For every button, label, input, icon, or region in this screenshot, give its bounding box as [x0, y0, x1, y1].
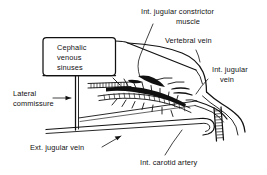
ext-jugular-arrowhead [115, 136, 121, 140]
label-int-carotid-artery: Int. carotid artery [140, 158, 198, 167]
label-int-jugular-constrictor-muscle: Int. jugular constrictor muscle [141, 7, 214, 26]
label-int-jugular-vein-line1: Int. jugular [212, 65, 248, 74]
label-vertebral-vein: Vertebral vein [165, 36, 212, 45]
label-lateral-commissure: Lateral commissure [13, 89, 54, 108]
label-cephalic-venous-sinuses: Cephalic venous sinuses [57, 43, 87, 72]
label-ext-jugular-vein: Ext. jugular vein [30, 143, 84, 152]
int-carotid-artery-vessel [214, 107, 224, 141]
label-constrictor-line2: muscle [176, 17, 200, 26]
label-cephalic-line3: sinuses [57, 63, 83, 72]
label-cephalic-line1: Cephalic [57, 43, 87, 52]
label-int-carotid-artery-line1: Int. carotid artery [140, 158, 198, 167]
label-ext-jugular-vein-line1: Ext. jugular vein [30, 143, 84, 152]
label-int-jugular-vein: Int. jugular vein [212, 65, 248, 84]
leader-vertebral-vein [196, 50, 200, 62]
label-cephalic-line2: venous [57, 53, 82, 62]
leader-int-carotid-artery [165, 130, 182, 155]
ext-jugular-vein-vessel [46, 118, 214, 135]
lateral-commissure-arrowhead [66, 96, 72, 100]
label-int-jugular-vein-line2: vein [220, 75, 234, 84]
label-constrictor-line1: Int. jugular constrictor [141, 7, 214, 16]
figure-canvas: Int. jugular constrictor muscle Vertebra… [0, 0, 267, 175]
neck-block-shape [43, 76, 116, 131]
anatomical-diagram: Int. jugular constrictor muscle Vertebra… [0, 0, 267, 175]
label-lateral-commissure-line1: Lateral [13, 89, 37, 98]
label-lateral-commissure-line2: commissure [13, 99, 54, 108]
label-vertebral-vein-line1: Vertebral vein [165, 36, 212, 45]
